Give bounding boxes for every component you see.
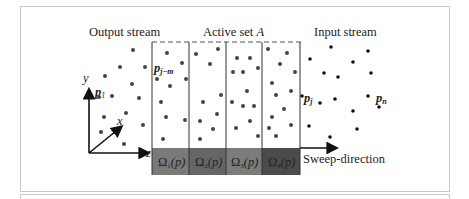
omega-label-4: Ω4(p) bbox=[268, 155, 295, 170]
omega-label-1: Ω1(p) bbox=[158, 155, 185, 170]
pj-m-label: pj−m bbox=[153, 61, 174, 76]
pn-label: pn bbox=[375, 91, 387, 106]
pj-label: pj bbox=[303, 91, 313, 106]
active-set-label: Active set A bbox=[203, 25, 264, 39]
omega-label-2: Ω2(p) bbox=[195, 155, 222, 170]
sweep-direction-label: Sweep-direction bbox=[303, 152, 386, 166]
input-stream-label: Input stream bbox=[314, 25, 377, 39]
axis-z-label: z bbox=[145, 146, 151, 160]
axis-x-label: x bbox=[116, 114, 123, 128]
input-stream-points bbox=[300, 45, 381, 139]
sweep-diagram: Output stream Active set A Input stream … bbox=[0, 0, 469, 199]
axis-y-label: y bbox=[81, 71, 89, 85]
output-stream-label: Output stream bbox=[89, 25, 160, 39]
omega-label-3: Ω3(p) bbox=[231, 155, 258, 170]
axes-icon: y x z bbox=[81, 71, 151, 160]
